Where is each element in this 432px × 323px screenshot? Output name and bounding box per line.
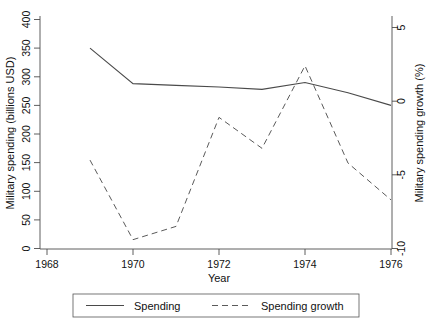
chart-container: 0 50 100 150 200 250 300 350 400 Militar… (0, 0, 432, 323)
y2-tick-label-5: 5 (395, 24, 407, 30)
y-tick-label-50: 50 (20, 214, 32, 226)
y2-tick-label-m10: -10 (395, 241, 407, 256)
legend-label-spending-growth: Spending growth (261, 300, 344, 312)
y2-tick-label-m5: -5 (395, 170, 407, 179)
y-tick-label-100: 100 (20, 182, 32, 200)
series-spending-line (90, 48, 391, 105)
line-chart: 0 50 100 150 200 250 300 350 400 Militar… (0, 0, 432, 323)
y-tick-label-150: 150 (20, 154, 32, 172)
x-tick-label-1970: 1970 (121, 258, 145, 270)
y-axis-left-title: Military spending (billions USD) (4, 57, 16, 210)
y-tick-label-200: 200 (20, 125, 32, 143)
y-axis-right-ticks (392, 28, 398, 249)
y-tick-label-250: 250 (20, 96, 32, 114)
chart-legend: Spending Spending growth (73, 294, 359, 317)
y-tick-label-300: 300 (20, 68, 32, 86)
x-tick-label-1976: 1976 (379, 258, 403, 270)
x-axis-tick-labels: 1968 1970 1972 1974 1976 (35, 258, 403, 270)
x-axis-title: Year (208, 272, 231, 284)
y-tick-label-400: 400 (20, 11, 32, 29)
y-axis-left-ticks (34, 20, 40, 249)
y-axis-right-title: Military spending growth (%) (413, 64, 425, 203)
y-tick-label-350: 350 (20, 39, 32, 57)
y2-tick-label-0: 0 (395, 98, 407, 104)
y-axis-left-tick-labels: 0 50 100 150 200 250 300 350 400 (20, 11, 32, 252)
x-tick-label-1972: 1972 (207, 258, 231, 270)
y-axis-right-tick-labels: -10 -5 0 5 (395, 24, 407, 256)
x-tick-label-1968: 1968 (35, 258, 59, 270)
x-tick-label-1974: 1974 (293, 258, 317, 270)
x-axis-ticks (47, 249, 391, 255)
legend-label-spending: Spending (134, 300, 181, 312)
y-tick-label-0: 0 (20, 245, 32, 251)
